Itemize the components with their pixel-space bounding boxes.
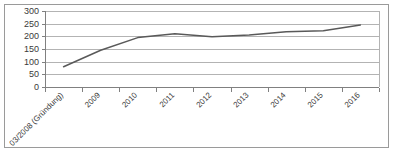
grid-lines [45,12,379,88]
screenshot-root: 050100150200250300 03/2008 (Gründung)200… [0,0,394,156]
x-axis [45,11,380,92]
x-tick-label: 2013 [232,90,251,109]
y-tick-label: 250 [24,19,39,29]
x-tick-label: 2009 [83,90,102,109]
x-tick-label: 2014 [269,90,288,109]
y-tick-label: 0 [34,82,39,92]
x-tick-label: 2015 [306,90,325,109]
x-tick-labels: 03/2008 (Gründung)2009201020112012201320… [8,90,363,147]
x-tick-label: 2016 [343,90,362,109]
y-axis [42,11,46,88]
x-tick-label: 2010 [120,90,139,109]
x-tick-label: 2012 [194,90,213,109]
y-tick-labels: 050100150200250300 [24,6,39,92]
data-series-group [64,25,361,67]
x-tick-label: 03/2008 (Gründung) [8,90,66,147]
data-series-line [64,25,361,67]
chart-frame: 050100150200250300 03/2008 (Gründung)200… [4,4,389,148]
x-tick-label: 2011 [158,90,177,109]
y-tick-label: 200 [24,31,39,41]
y-tick-label: 300 [24,6,39,16]
y-tick-label: 100 [24,57,39,67]
line-chart: 050100150200250300 03/2008 (Gründung)200… [5,5,388,147]
y-tick-label: 150 [24,44,39,54]
y-tick-label: 50 [29,69,39,79]
